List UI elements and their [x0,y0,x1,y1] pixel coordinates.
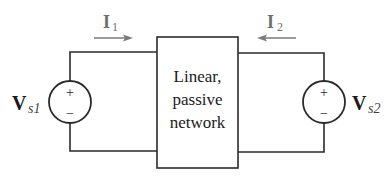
minus-sign: − [66,106,74,121]
voltage-source-right: + − [303,81,345,123]
i2-symbol: I [267,12,274,32]
plus-sign: + [320,85,328,100]
minus-sign: − [320,106,328,121]
network-label-line-2: passive [172,90,222,109]
voltage-source-left: + − [49,81,91,123]
vs2-subscript: s2 [368,101,380,116]
right-bottom-wire [238,123,324,152]
vs1-subscript: s1 [28,101,40,116]
i1-symbol: I [103,12,110,32]
left-top-wire [70,52,157,81]
i2-subscript: 2 [277,20,283,34]
right-top-wire [238,53,324,81]
current-i1: I 1 [94,12,133,42]
i1-subscript: 1 [112,20,118,34]
left-bottom-wire [70,123,157,151]
vs1-symbol: V [12,92,27,114]
network-label-line-3: network [170,113,226,132]
network-label: Linear, passive network [170,67,226,132]
current-i2: I 2 [257,12,296,42]
network-label-line-1: Linear, [174,67,222,86]
plus-sign: + [66,85,74,100]
source-label-vs1: V s1 [12,92,40,116]
source-label-vs2: V s2 [352,92,380,116]
vs2-symbol: V [352,92,367,114]
circuit-diagram: Linear, passive network + − V s1 + − V s… [0,0,387,177]
